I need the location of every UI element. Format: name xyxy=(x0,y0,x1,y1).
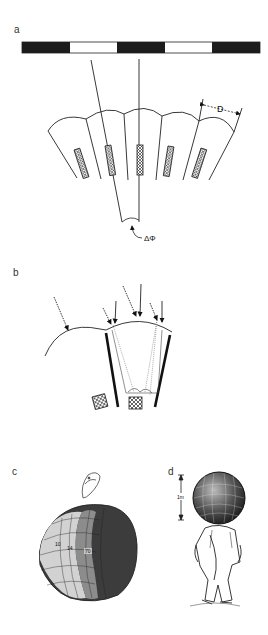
neighbor-facet-arc xyxy=(45,327,106,356)
cone-outline xyxy=(112,330,162,393)
grating-bar xyxy=(22,42,260,53)
scale-label: 1m xyxy=(177,494,184,500)
delta-phi-label: ΔΦ xyxy=(144,234,156,243)
region-label-10: 10 xyxy=(55,541,61,547)
panel-c: 10 14 70 xyxy=(39,473,137,601)
ray-paths xyxy=(113,320,157,395)
incoming-light-arrows xyxy=(54,284,162,330)
pigment-wall-right xyxy=(155,335,170,407)
region-label-70: 70 xyxy=(85,548,91,554)
rhabdom-main xyxy=(129,397,142,409)
head-outline-icon xyxy=(82,473,100,498)
pigment-wall-left xyxy=(106,333,118,407)
rhabdom-neighbor xyxy=(92,394,108,410)
figure-canvas: D ΔΦ xyxy=(0,0,268,635)
ray-line-left xyxy=(91,60,122,222)
dimension-d-indicator: D xyxy=(204,104,240,114)
giant-compound-eye xyxy=(193,472,245,524)
dimension-d-label: D xyxy=(217,104,224,114)
scale-bar-1m: 1m xyxy=(177,475,186,520)
panel-b xyxy=(45,284,172,410)
human-figure xyxy=(190,525,241,606)
compound-eye-map: 10 14 70 xyxy=(39,505,137,601)
ommatidia-fan xyxy=(48,99,242,180)
panel-d: 1m xyxy=(177,472,245,606)
region-label-14: 14 xyxy=(67,545,73,551)
panel-a: D ΔΦ xyxy=(22,42,260,243)
